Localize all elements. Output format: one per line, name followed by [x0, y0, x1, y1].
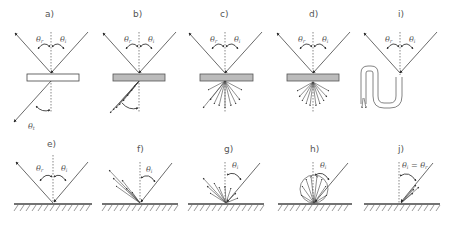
- angle-arc-i: [226, 44, 238, 49]
- panel-g: g) θi: [188, 144, 264, 211]
- panel-i: i) θr θi: [361, 9, 437, 108]
- panel-label-j: j): [397, 144, 404, 154]
- theta-i-label: θi: [61, 164, 68, 173]
- light-guide-inner: [366, 71, 402, 108]
- surface-hatch: [14, 205, 90, 211]
- panel-a: a) θr θi θt: [14, 9, 88, 131]
- spread-transmitted-rays: [110, 81, 139, 113]
- panel-c: c) θr θi: [189, 9, 262, 112]
- guide-output-ray: [362, 98, 363, 108]
- incident-ray: [400, 32, 437, 73]
- panel-label-f: f): [137, 144, 144, 154]
- theta-i-label: θi: [409, 35, 416, 44]
- theta-r-label: θr: [210, 35, 218, 44]
- theta-i-equals-r-label: θi = θr: [402, 161, 428, 170]
- spread-reflected-rays: [109, 170, 140, 203]
- angle-arc-t: [36, 106, 50, 111]
- angle-arc-r: [300, 44, 312, 49]
- panel-j: j) θi = θr: [364, 144, 440, 211]
- angle-arc-r: [387, 44, 399, 49]
- panel-f: f) θi: [102, 144, 178, 211]
- retroreflected-rays: [401, 185, 419, 203]
- diffuse-plate: [287, 74, 339, 81]
- theta-i-label: θi: [322, 35, 329, 44]
- theta-t-label: θt: [28, 122, 36, 131]
- semi-diffuse-plate: [200, 74, 253, 81]
- theta-i-label: θi: [320, 161, 327, 170]
- panel-b: b) θr θi: [103, 9, 176, 113]
- diffuse-reflected-rays: [301, 176, 327, 203]
- mixed-reflected-rays: [203, 178, 238, 203]
- theta-i-label: θi: [232, 161, 239, 170]
- panel-label-a: a): [45, 9, 54, 19]
- clear-plate: [27, 74, 79, 81]
- surface-hatch: [188, 205, 264, 211]
- angle-arc-i: [54, 175, 66, 181]
- theta-r-label: θr: [36, 35, 44, 44]
- incident-ray: [54, 162, 88, 202]
- theta-r-label: θr: [385, 35, 393, 44]
- theta-i-label: θi: [146, 165, 153, 174]
- reflected-ray: [364, 33, 400, 73]
- panel-h: h) θi: [278, 144, 352, 211]
- frosted-plate: [113, 74, 165, 81]
- angle-arc-i: [314, 44, 326, 49]
- reflected-ray: [103, 33, 139, 73]
- angle-arc-t: [122, 103, 138, 109]
- incident-ray: [225, 32, 262, 73]
- mixed-transmitted-rays: [203, 81, 242, 108]
- panel-e: e) θr θi: [14, 139, 92, 211]
- angle-arc-i: [52, 44, 64, 49]
- panel-label-i: i): [398, 9, 404, 19]
- angle-arc-i: [140, 44, 152, 49]
- theta-r-label: θr: [36, 164, 44, 173]
- theta-r-label: θr: [298, 35, 306, 44]
- panel-label-e: e): [47, 139, 56, 149]
- panel-label-b: b): [133, 9, 142, 19]
- angle-arc-r: [212, 44, 224, 49]
- theta-i-label: θi: [60, 35, 67, 44]
- panel-label-d: d): [309, 9, 318, 19]
- panel-d: d) θr θi: [277, 9, 350, 112]
- incident-ray: [51, 32, 88, 73]
- angle-arc-i: [141, 176, 155, 182]
- incident-ray: [313, 32, 350, 73]
- reflected-ray: [16, 162, 53, 203]
- reflected-ray: [277, 33, 313, 73]
- theta-i-label: θi: [234, 35, 241, 44]
- panel-label-c: c): [220, 9, 228, 19]
- angle-arc-r: [126, 44, 138, 49]
- angle-arc-i: [227, 173, 241, 180]
- angle-arc-r: [40, 175, 52, 181]
- transmitted-ray: [14, 81, 51, 122]
- surface-hatch: [102, 205, 178, 211]
- reflected-ray: [15, 33, 51, 73]
- reflection-diagram: a) θr θi θt b) θr θi: [0, 0, 450, 228]
- angle-arc-i: [400, 174, 416, 181]
- incident-ray: [139, 32, 176, 73]
- reflected-ray: [189, 33, 225, 73]
- theta-i-label: θi: [148, 35, 155, 44]
- surface-hatch: [364, 205, 440, 211]
- angle-arc-i: [401, 44, 413, 49]
- panel-label-h: h): [310, 144, 319, 154]
- panel-label-g: g): [224, 144, 233, 154]
- angle-arc-r: [38, 44, 50, 49]
- theta-r-label: θr: [124, 35, 132, 44]
- surface-hatch: [278, 205, 348, 211]
